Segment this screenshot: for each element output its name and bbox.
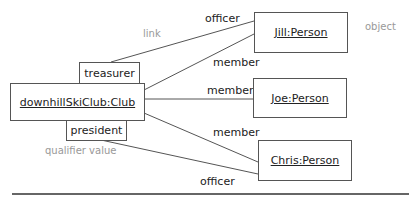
object-chris-label: Chris:Person bbox=[271, 154, 340, 167]
role-label-member-joe: member bbox=[207, 85, 253, 96]
role-label-officer-chris: officer bbox=[200, 176, 235, 187]
object-chris[interactable]: Chris:Person bbox=[258, 140, 352, 181]
object-joe[interactable]: Joe:Person bbox=[253, 78, 347, 118]
annotation-qualifier-value: qualifier value bbox=[45, 146, 116, 156]
uml-object-diagram: link object qualifier value officer memb… bbox=[0, 0, 409, 200]
link-line-president-chris bbox=[101, 140, 258, 174]
qualifier-treasurer[interactable]: treasurer bbox=[79, 62, 140, 84]
role-label-member-chris: member bbox=[213, 127, 259, 138]
role-label-member-jill: member bbox=[213, 57, 259, 68]
object-joe-label: Joe:Person bbox=[271, 92, 328, 105]
object-jill-label: Jill:Person bbox=[274, 26, 327, 39]
qualifier-president-label: president bbox=[71, 124, 123, 137]
annotation-link: link bbox=[143, 29, 161, 39]
object-jill[interactable]: Jill:Person bbox=[254, 12, 348, 53]
annotation-object: object bbox=[365, 22, 396, 32]
qualifier-treasurer-label: treasurer bbox=[84, 67, 134, 80]
qualifier-president[interactable]: president bbox=[66, 119, 127, 141]
object-club[interactable]: downhillSkiClub:Club bbox=[10, 83, 145, 121]
horizontal-divider bbox=[12, 193, 409, 195]
role-label-officer-jill: officer bbox=[205, 13, 240, 24]
object-club-label: downhillSkiClub:Club bbox=[20, 96, 135, 109]
